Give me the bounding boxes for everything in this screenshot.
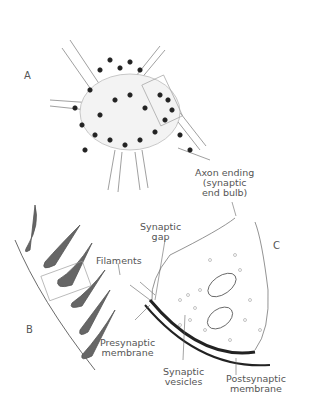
panel-label-c: C — [273, 240, 280, 251]
label-presynaptic-membrane: Presynaptic membrane — [100, 338, 155, 358]
panel-label-b: B — [26, 324, 33, 335]
label-postsynaptic-membrane: Postsynaptic membrane — [226, 374, 286, 394]
label-filaments: Filaments — [96, 256, 142, 266]
label-axon-ending: Axon ending (synaptic end bulb) — [195, 168, 254, 198]
label-synaptic-gap: Synaptic gap — [140, 222, 181, 242]
panel-label-a: A — [24, 70, 31, 81]
label-synaptic-vesicles: Synaptic vesicles — [163, 367, 204, 387]
